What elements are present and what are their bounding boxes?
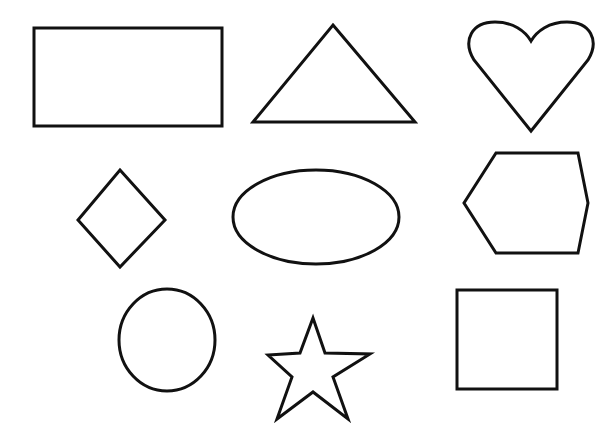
shapes-illustration	[0, 0, 616, 438]
ellipse-shape	[233, 170, 399, 264]
triangle-shape	[253, 25, 415, 122]
diamond-shape	[78, 170, 165, 267]
shapes-canvas	[0, 0, 616, 438]
square-shape	[457, 290, 557, 389]
hexagon-shape	[464, 153, 588, 253]
circle-shape	[119, 289, 215, 391]
star-shape	[268, 318, 370, 419]
rectangle-shape	[34, 28, 222, 126]
heart-shape	[469, 22, 593, 131]
